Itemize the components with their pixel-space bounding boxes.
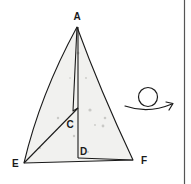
label-C: C xyxy=(67,119,74,130)
label-D: D xyxy=(80,146,87,157)
origami-diagram: A C D E F xyxy=(0,0,191,184)
turn-over-icon xyxy=(125,88,173,111)
label-A: A xyxy=(74,11,81,22)
label-E: E xyxy=(12,158,19,169)
label-F: F xyxy=(141,155,147,166)
